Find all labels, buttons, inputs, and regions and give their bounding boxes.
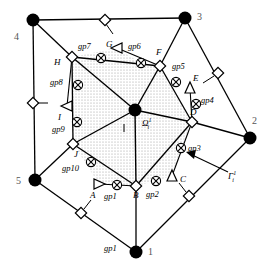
gauss-label-gp9: gp9 bbox=[52, 125, 65, 134]
gauss-label-bottom: gp1 bbox=[104, 244, 117, 253]
gauss-label-gp7: gp7 bbox=[78, 42, 91, 51]
triangle-label-E: E bbox=[193, 74, 199, 83]
center-node bbox=[129, 104, 142, 117]
outer-vertex-label-4: 4 bbox=[14, 32, 19, 42]
inner-vertex-label-D: D bbox=[190, 108, 197, 117]
triangle-label-A: A bbox=[90, 191, 96, 200]
inner-vertex-label-H: H bbox=[54, 58, 61, 67]
outer-vertex-label-3: 3 bbox=[197, 12, 202, 22]
inner-vertex-label-F: F bbox=[156, 48, 162, 57]
subdomain-sub: i bbox=[148, 124, 150, 130]
gauss-label-gp3: gp3 bbox=[188, 144, 201, 153]
gamma-arrow bbox=[186, 150, 228, 172]
gauss-label-gp4: gp4 bbox=[201, 96, 214, 105]
gauss-label-gp1: gp1 bbox=[104, 192, 117, 201]
gauss-label-gp6: gp6 bbox=[128, 42, 141, 51]
gauss-label-gp5: gp5 bbox=[172, 62, 185, 71]
figure-canvas: 1 2 3 4 5 H F D B J A C E G I gp1 gp2 gp… bbox=[0, 0, 270, 268]
outer-vertex-label-5: 5 bbox=[16, 176, 21, 186]
gauss-label-gp10: gp10 bbox=[62, 164, 79, 173]
outer-vertex-label-1: 1 bbox=[148, 247, 153, 257]
triangle-label-G: G bbox=[106, 40, 113, 49]
inner-vertex-label-J: J bbox=[74, 150, 78, 159]
gauss-label-gp8: gp8 bbox=[50, 78, 63, 87]
subdomain-sup: 1 bbox=[149, 117, 152, 123]
boundary-sub: i bbox=[232, 177, 234, 183]
boundary-sup: 1 bbox=[233, 170, 236, 176]
outer-vertex-label-2: 2 bbox=[252, 116, 257, 126]
triangle-label-C: C bbox=[180, 175, 186, 184]
boundary-label: Γ1i bbox=[228, 170, 234, 183]
inner-vertex-label-B: B bbox=[133, 191, 139, 200]
triangle-label-I: I bbox=[58, 113, 61, 122]
subdomain-label: Ω1i bbox=[142, 117, 149, 130]
gauss-label-gp2: gp2 bbox=[146, 190, 159, 199]
